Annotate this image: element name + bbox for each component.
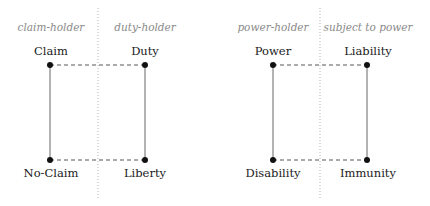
label-duty: Duty [131,44,159,58]
role-duty-holder: duty-holder [114,21,176,34]
label-power: Power [255,44,291,58]
label-liberty: Liberty [124,166,166,180]
noclaim-node [47,157,53,163]
label-liability: Liability [344,44,392,58]
label-disability: Disability [245,166,300,180]
immunity-node [364,157,370,163]
liberty-node [142,157,148,163]
label-no-claim: No-Claim [24,166,79,180]
liability-node [364,62,370,68]
disability-node [270,157,276,163]
role-claim-holder: claim-holder [18,21,85,34]
role-power-holder: power-holder [237,21,308,34]
duty-node [142,62,148,68]
role-subject-to-power: subject to power [324,21,413,34]
claim-node [47,62,53,68]
label-claim: Claim [34,44,68,58]
power-node [270,62,276,68]
label-immunity: Immunity [340,166,396,180]
